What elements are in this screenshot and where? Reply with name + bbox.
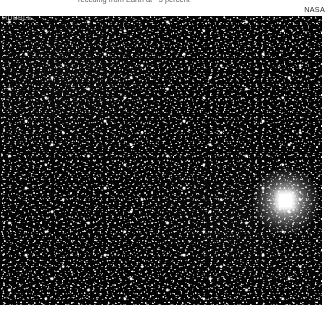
photo-overlay-label: HUBBLE bbox=[2, 16, 32, 22]
image-credit: NASA bbox=[304, 5, 325, 14]
caption-clip: receding from Earth at ~5 percent bbox=[0, 0, 333, 6]
bright-object bbox=[253, 168, 319, 234]
article-caption: receding from Earth at ~5 percent bbox=[78, 0, 190, 5]
diffuse-field-glow bbox=[0, 16, 322, 305]
object-core bbox=[279, 194, 292, 207]
astronomy-photo: HUBBLE bbox=[0, 16, 322, 305]
screenshot-root: receding from Earth at ~5 percent NASA H… bbox=[0, 0, 333, 310]
